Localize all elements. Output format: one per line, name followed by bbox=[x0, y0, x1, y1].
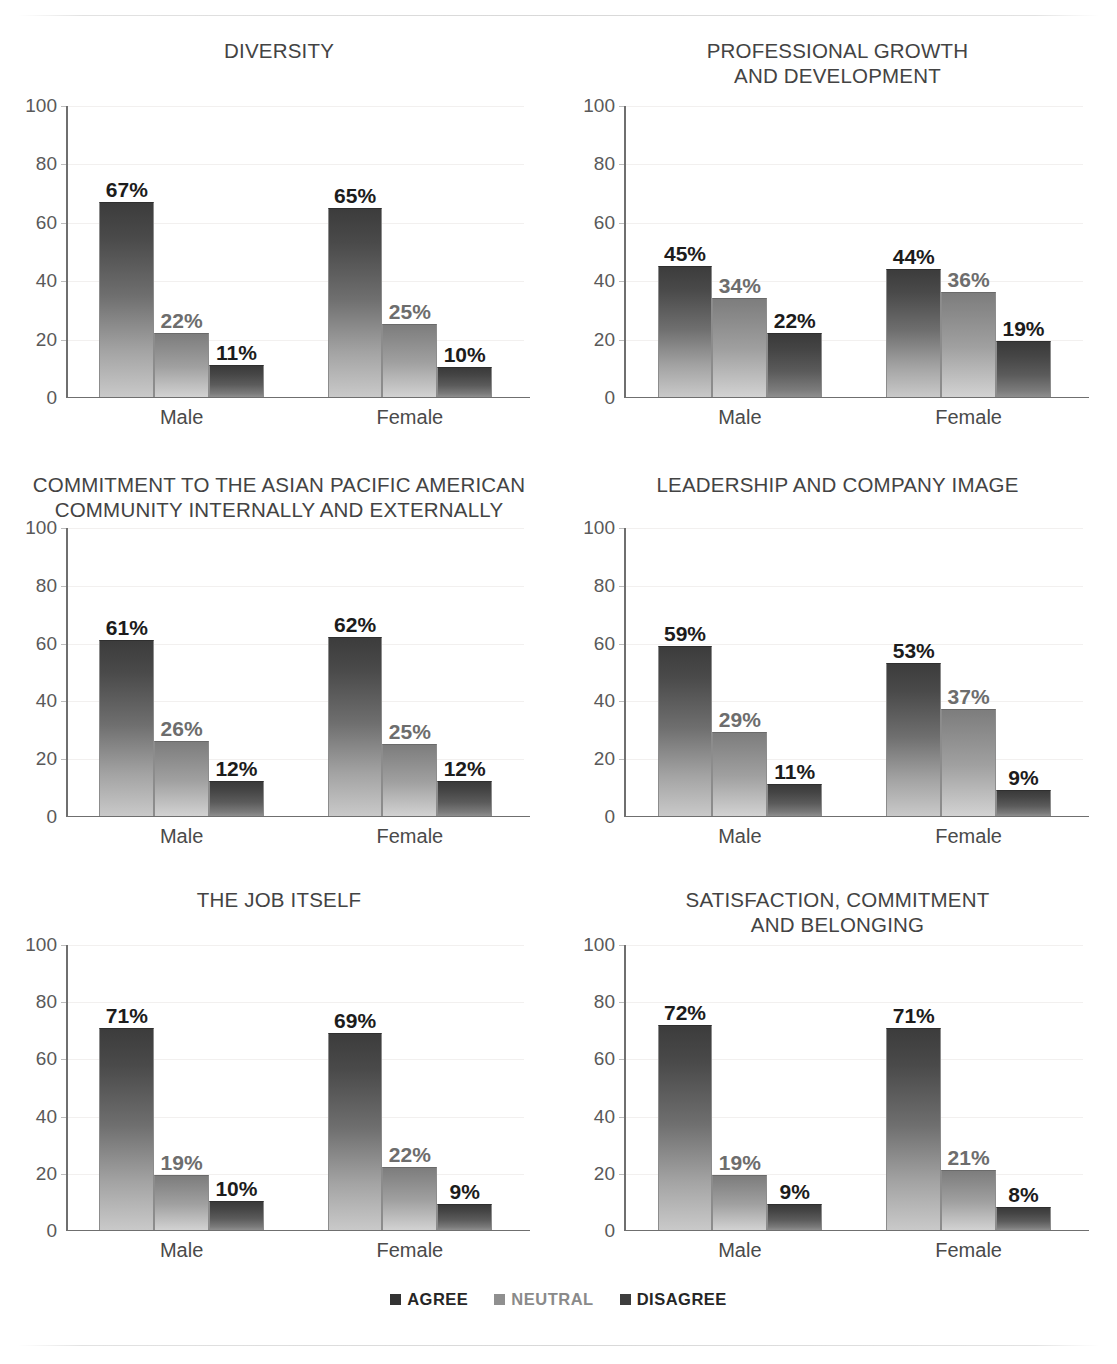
bar[interactable]: 61% bbox=[99, 640, 154, 815]
bar-value-label: 10% bbox=[444, 344, 486, 365]
y-tick-label: 20 bbox=[36, 748, 57, 770]
legend-item-agree[interactable]: AGREE bbox=[390, 1290, 468, 1309]
y-tick-label: 0 bbox=[46, 1220, 57, 1242]
bar[interactable]: 29% bbox=[712, 732, 767, 815]
bar[interactable]: 19% bbox=[712, 1175, 767, 1229]
bar[interactable]: 34% bbox=[712, 298, 767, 397]
bar[interactable]: 71% bbox=[886, 1028, 941, 1230]
bar[interactable]: 59% bbox=[658, 646, 713, 816]
y-tick-label: 20 bbox=[36, 1163, 57, 1185]
bar-value-label: 65% bbox=[334, 185, 376, 206]
bar[interactable]: 10% bbox=[437, 367, 492, 396]
bar[interactable]: 25% bbox=[382, 324, 437, 397]
bar[interactable]: 65% bbox=[328, 208, 383, 397]
x-axis-line bbox=[66, 397, 530, 399]
bar-value-label: 10% bbox=[215, 1178, 257, 1199]
bar-set: 71%19%10% bbox=[99, 945, 263, 1230]
plot-area: 02040608010059%29%11%Male53%37%9%Female bbox=[624, 528, 1083, 817]
bar-slot: 61% bbox=[99, 528, 154, 816]
bar[interactable]: 72% bbox=[658, 1025, 713, 1230]
y-tick-label: 60 bbox=[594, 1048, 615, 1070]
bar-value-label: 8% bbox=[1008, 1184, 1038, 1205]
bar[interactable]: 12% bbox=[209, 781, 264, 816]
bar-group: 45%34%22%Male bbox=[626, 106, 855, 397]
bar-set: 69%22%9% bbox=[328, 945, 492, 1230]
bar-slot: 11% bbox=[209, 106, 264, 397]
top-divider bbox=[18, 15, 1099, 16]
chart-panel: THE JOB ITSELF02040608010071%19%10%Male6… bbox=[0, 871, 558, 1283]
bar[interactable]: 44% bbox=[886, 269, 941, 397]
chart-panel: PROFESSIONAL GROWTH AND DEVELOPMENT02040… bbox=[558, 22, 1117, 456]
category-label: Female bbox=[935, 406, 1002, 429]
bar[interactable]: 25% bbox=[382, 744, 437, 816]
bar-group: 62%25%12%Female bbox=[296, 528, 524, 816]
y-tick-label: 40 bbox=[36, 270, 57, 292]
bar-slot: 71% bbox=[99, 945, 154, 1230]
bar[interactable]: 22% bbox=[767, 333, 822, 397]
bar[interactable]: 53% bbox=[886, 663, 941, 815]
y-tick-label: 40 bbox=[594, 690, 615, 712]
bar-slot: 22% bbox=[154, 106, 209, 397]
legend-swatch-icon bbox=[390, 1294, 401, 1305]
plot-area: 02040608010045%34%22%Male44%36%19%Female bbox=[624, 106, 1083, 398]
bar-slot: 29% bbox=[712, 528, 767, 816]
bar[interactable]: 67% bbox=[99, 202, 154, 397]
category-label: Male bbox=[160, 825, 203, 848]
bar[interactable]: 26% bbox=[154, 741, 209, 816]
bar-slot: 19% bbox=[712, 945, 767, 1230]
y-tick-label: 60 bbox=[594, 212, 615, 234]
chart-panel: DIVERSITY02040608010067%22%11%Male65%25%… bbox=[0, 22, 558, 456]
category-label: Female bbox=[935, 825, 1002, 848]
bar-slot: 12% bbox=[437, 528, 492, 816]
bar[interactable]: 71% bbox=[99, 1028, 154, 1230]
bar-slot: 19% bbox=[996, 106, 1051, 397]
bar-value-label: 11% bbox=[216, 342, 257, 363]
y-tick-label: 80 bbox=[36, 153, 57, 175]
bar[interactable]: 22% bbox=[154, 333, 209, 397]
bar-value-label: 11% bbox=[774, 761, 815, 782]
bar[interactable]: 12% bbox=[437, 781, 492, 816]
bar[interactable]: 19% bbox=[154, 1175, 209, 1229]
y-tick-label: 100 bbox=[583, 517, 615, 539]
bar-slot: 9% bbox=[767, 945, 822, 1230]
legend-item-disagree[interactable]: DISAGREE bbox=[620, 1290, 727, 1309]
y-tick-label: 0 bbox=[604, 387, 615, 409]
bar-groups: 67%22%11%Male65%25%10%Female bbox=[68, 106, 525, 397]
bar-value-label: 12% bbox=[215, 758, 257, 779]
bar[interactable]: 11% bbox=[209, 365, 264, 397]
y-tick-label: 20 bbox=[36, 329, 57, 351]
bar-value-label: 22% bbox=[161, 310, 203, 331]
y-tick-label: 40 bbox=[594, 270, 615, 292]
x-axis-line bbox=[66, 1230, 530, 1232]
legend-item-neutral[interactable]: NEUTRAL bbox=[494, 1290, 593, 1309]
bar[interactable]: 9% bbox=[437, 1204, 492, 1230]
bar-group: 72%19%9%Male bbox=[626, 945, 855, 1230]
bar[interactable]: 69% bbox=[328, 1033, 383, 1229]
chart-title: COMMITMENT TO THE ASIAN PACIFIC AMERICAN… bbox=[0, 472, 558, 523]
bar-group: 44%36%19%Female bbox=[854, 106, 1083, 397]
bar[interactable]: 9% bbox=[996, 790, 1051, 816]
bar[interactable]: 36% bbox=[941, 292, 996, 397]
bar[interactable]: 10% bbox=[209, 1201, 264, 1229]
y-tick-label: 0 bbox=[46, 806, 57, 828]
bar-value-label: 26% bbox=[161, 718, 203, 739]
y-tick-label: 20 bbox=[594, 1163, 615, 1185]
y-tick-label: 80 bbox=[594, 991, 615, 1013]
bar-slot: 22% bbox=[767, 106, 822, 397]
bar-value-label: 61% bbox=[106, 617, 148, 638]
bar[interactable]: 22% bbox=[382, 1167, 437, 1230]
bar[interactable]: 19% bbox=[996, 341, 1051, 396]
bar[interactable]: 11% bbox=[767, 784, 822, 816]
bar-value-label: 59% bbox=[664, 623, 706, 644]
bar[interactable]: 9% bbox=[767, 1204, 822, 1230]
plot-area: 02040608010067%22%11%Male65%25%10%Female bbox=[66, 106, 524, 398]
bar-slot: 71% bbox=[886, 945, 941, 1230]
bar[interactable]: 45% bbox=[658, 266, 713, 397]
legend-swatch-icon bbox=[620, 1294, 631, 1305]
bar-value-label: 34% bbox=[719, 275, 761, 296]
bar[interactable]: 8% bbox=[996, 1207, 1051, 1230]
bar[interactable]: 21% bbox=[941, 1170, 996, 1230]
bar[interactable]: 62% bbox=[328, 637, 383, 815]
x-axis-line bbox=[624, 1230, 1089, 1232]
bar[interactable]: 37% bbox=[941, 709, 996, 815]
